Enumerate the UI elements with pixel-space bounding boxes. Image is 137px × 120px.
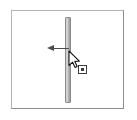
drag-handle-badge-dot — [81, 68, 84, 71]
arrow-shaft — [53, 48, 69, 49]
drag-handle-badge-icon — [78, 65, 87, 74]
drag-direction-arrow-annotation — [47, 44, 69, 53]
panel-canvas — [12, 11, 123, 108]
screenshot-stage — [0, 0, 137, 120]
resize-panel[interactable] — [11, 10, 124, 109]
